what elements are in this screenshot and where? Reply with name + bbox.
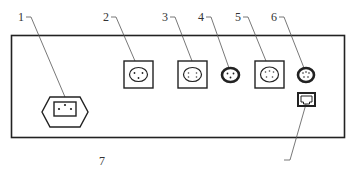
leader-line-1: [26, 17, 65, 97]
connector-3-square-socket: [178, 61, 207, 88]
connector-1-power-inlet: [42, 97, 88, 127]
connector-2-square-socket: [124, 61, 153, 88]
callout-label-7-visible: 7: [99, 154, 105, 168]
connector-panel-diagram: 1 2 3 4 5 6 7 7: [0, 0, 352, 174]
leader-line-2: [111, 17, 135, 61]
leader-line-3: [170, 17, 192, 61]
callout-label-3: 3: [162, 10, 168, 24]
leader-line-5: [243, 17, 266, 61]
connector-4-round: [222, 68, 239, 82]
leader-line-4: [206, 17, 229, 68]
connector-7-rj-port: [298, 93, 315, 106]
leader-line-7: [284, 104, 306, 160]
callout-label-2: 2: [103, 10, 109, 24]
callout-label-6: 6: [271, 10, 277, 24]
connector-6-round: [298, 68, 314, 82]
callout-label-4: 4: [198, 10, 204, 24]
callout-label-5: 5: [235, 10, 241, 24]
callout-label-1: 1: [18, 10, 24, 24]
connector-5-square-socket: [255, 61, 284, 88]
